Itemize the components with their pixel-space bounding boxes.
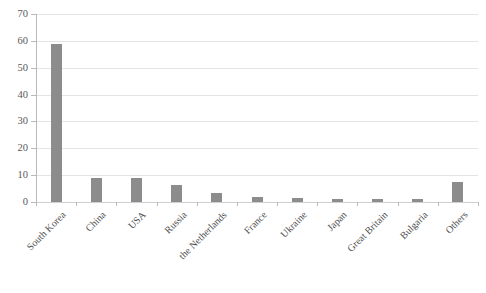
bar-chart: 010203040506070 South KoreaChinaUSARussi… [0,0,486,293]
x-axis-labels: South KoreaChinaUSARussiathe Netherlands… [0,0,486,293]
